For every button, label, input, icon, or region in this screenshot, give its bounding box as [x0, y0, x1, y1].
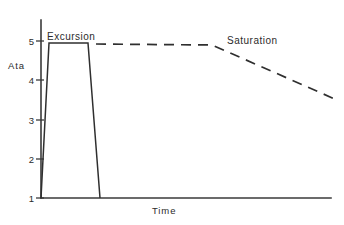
- y-tick-label-1: 1: [22, 193, 34, 204]
- x-axis-title: Time: [152, 205, 176, 216]
- saturation-label: Saturation: [227, 35, 278, 46]
- excursion-label: Excursion: [47, 31, 95, 42]
- chart-figure: 5 4 3 2 1 Ata Time Excursion Saturation: [0, 0, 344, 225]
- saturation-series-line: [96, 44, 337, 100]
- y-tick-label-4: 4: [22, 75, 34, 86]
- y-tick-label-5: 5: [22, 36, 34, 47]
- y-tick-label-3: 3: [22, 115, 34, 126]
- y-axis-title: Ata: [8, 60, 25, 71]
- excursion-series-line: [41, 43, 100, 198]
- y-tick-label-2: 2: [22, 154, 34, 165]
